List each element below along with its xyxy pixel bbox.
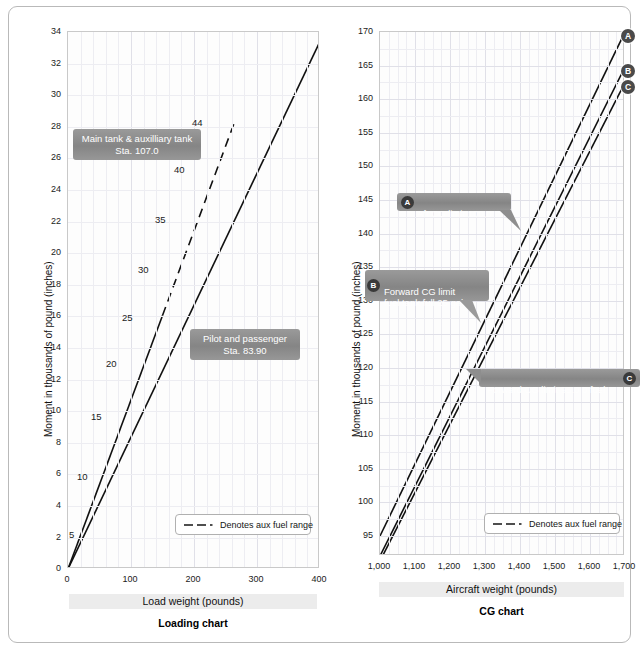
cg-y-tick: 110 (339, 429, 373, 439)
cg-y-tick: 105 (339, 463, 373, 473)
callout-b-tail (459, 300, 485, 324)
loading-curve-label: 35 (155, 214, 166, 225)
loading-y-tick: 0 (31, 563, 61, 573)
loading-curve-label: 30 (138, 264, 149, 275)
cg-chart-panel: Moment in thousands of pound (inches) (339, 17, 639, 637)
cg-chart-x-axis-title: Aircraft weight (pounds) (379, 582, 624, 597)
loading-x-tick: 200 (173, 574, 213, 584)
loading-y-tick: 26 (31, 152, 61, 162)
cg-y-tick: 100 (339, 496, 373, 506)
badge-b-endpoint: B (621, 64, 635, 78)
loading-y-tick: 28 (31, 121, 61, 131)
callout-c-tail (466, 369, 482, 389)
loading-curve-label: 25 (122, 312, 133, 323)
cg-x-tick: 1,400 (500, 561, 538, 571)
cg-y-tick: 120 (339, 362, 373, 372)
legend-dash-sample (184, 521, 214, 529)
loading-curve-label: 20 (106, 358, 117, 369)
loading-y-tick: 30 (31, 89, 61, 99)
callout-c-label: Forward CG limit 95.0 0 fuel (487, 384, 605, 395)
loading-y-tick: 8 (31, 437, 61, 447)
loading-curve-label: 44 (192, 117, 203, 128)
loading-chart-legend: Denotes aux fuel range (175, 514, 311, 535)
cg-y-tick: 150 (339, 160, 373, 170)
loading-y-tick: 32 (31, 58, 61, 68)
callout-aft-cg-limit: Aft CG limit 100.0 (397, 193, 511, 211)
cg-x-tick: 1,000 (360, 561, 398, 571)
loading-y-tick: 14 (31, 342, 61, 352)
cg-x-tick: 1,300 (465, 561, 503, 571)
loading-x-tick: 300 (236, 574, 276, 584)
loading-curve-label: 15 (91, 411, 102, 422)
cg-chart-caption: CG chart (379, 605, 624, 617)
loading-y-tick: 20 (31, 247, 61, 257)
loading-curve-label: 10 (77, 471, 88, 482)
cg-y-tick: 165 (339, 60, 373, 70)
loading-y-tick: 18 (31, 279, 61, 289)
loading-curve-label: 5 (69, 529, 74, 540)
cg-chart-y-axis-title: Moment in thousands of pound (inches) (351, 261, 362, 437)
badge-a-callout: A (401, 196, 414, 209)
badge-a-endpoint: A (621, 29, 635, 43)
loading-y-tick: 22 (31, 216, 61, 226)
cg-chart-legend: Denotes aux fuel range (484, 513, 620, 534)
cg-x-tick: 1,600 (570, 561, 608, 571)
cg-y-tick: 115 (339, 396, 373, 406)
loading-y-tick: 34 (31, 26, 61, 36)
cg-y-tick: 140 (339, 228, 373, 238)
badge-c-endpoint: C (621, 80, 635, 94)
loading-x-tick: 400 (299, 574, 339, 584)
cg-y-tick: 170 (339, 26, 373, 36)
loading-curve-label: 40 (174, 164, 185, 175)
loading-y-tick: 2 (31, 532, 61, 542)
cg-x-tick: 1,100 (395, 561, 433, 571)
callout-fwd-cg-limit-full: Forward CG limit fuel tank full 25 gal (365, 270, 489, 301)
cg-y-tick: 160 (339, 93, 373, 103)
callout-a-label: Aft CG limit 100.0 (417, 208, 491, 219)
loading-y-tick: 12 (31, 374, 61, 384)
loading-x-tick: 0 (47, 574, 87, 584)
loading-y-tick: 4 (31, 500, 61, 510)
callout-pilot-passenger: Pilot and passenger Sta. 83.90 (190, 329, 300, 360)
loading-y-tick: 6 (31, 468, 61, 478)
loading-x-tick: 100 (110, 574, 150, 584)
legend-label: Denotes aux fuel range (529, 519, 622, 529)
legend-label: Denotes aux fuel range (220, 520, 313, 530)
cg-y-tick: 125 (339, 328, 373, 338)
cg-y-tick: 155 (339, 127, 373, 137)
loading-chart-plot-area (67, 31, 319, 568)
callout-a-tail (499, 210, 527, 232)
badge-b-callout: B (367, 279, 380, 292)
loading-chart-x-axis-title: Load weight (pounds) (69, 594, 317, 609)
cg-x-tick: 1,200 (430, 561, 468, 571)
cg-x-tick: 1,700 (605, 561, 641, 571)
cg-y-tick: 95 (339, 530, 373, 540)
loading-y-tick: 24 (31, 184, 61, 194)
callout-fwd-cg-limit-zero: Forward CG limit 95.0 0 fuel (479, 369, 640, 387)
loading-chart-gridlines (68, 32, 318, 567)
badge-c-callout: C (623, 372, 636, 385)
loading-y-tick: 10 (31, 405, 61, 415)
loading-y-tick: 16 (31, 310, 61, 320)
chart-page-frame: Moment in thousands of pound (inches) (8, 6, 631, 643)
legend-dash-sample (493, 520, 523, 528)
callout-main-aux-tank: Main tank & auxilliary tank Sta. 107.0 (73, 129, 201, 160)
loading-chart-caption: Loading chart (69, 617, 317, 629)
callout-b-label: Forward CG limit fuel tank full 25 gal (384, 286, 463, 309)
loading-chart-panel: Moment in thousands of pound (inches) (31, 17, 331, 637)
cg-x-tick: 1,500 (535, 561, 573, 571)
cg-y-tick: 145 (339, 194, 373, 204)
